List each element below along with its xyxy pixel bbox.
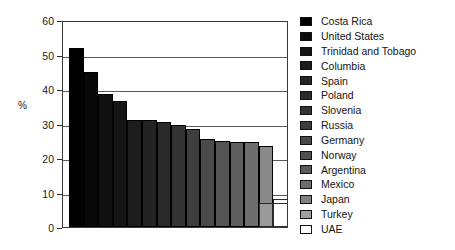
legend-item[interactable]: Spain [300,73,452,88]
legend-swatch-icon [300,121,312,130]
legend-item[interactable]: Norway [300,148,452,163]
legend-item[interactable]: Columbia [300,59,452,74]
bar [171,125,186,227]
y-tick-label: 30 [26,120,54,131]
plot-area [62,21,288,228]
legend-item[interactable]: Costa Rica [300,14,452,29]
legend-label: Turkey [321,209,353,220]
legend-swatch-icon [300,180,312,189]
legend-label: Norway [321,150,357,161]
legend-label: Argentina [321,165,366,176]
bar [142,120,157,227]
bars-group [63,22,287,227]
y-axis-tick-labels: 0102030405060 [26,0,54,250]
legend-swatch-icon [300,76,312,85]
bar-chart-figure: % 0102030405060 Costa RicaUnited StatesT… [0,0,455,250]
bar [259,203,274,227]
bar [84,72,99,227]
bar [98,94,113,227]
bar [186,129,201,227]
bar [244,142,259,227]
legend-item[interactable]: Japan [300,192,452,207]
legend-swatch-icon [300,151,312,160]
legend-label: Mexico [321,179,354,190]
legend-label: Spain [321,76,348,87]
legend-item[interactable]: Mexico [300,177,452,192]
bar [69,48,84,227]
bar [273,203,288,227]
bar [113,101,128,227]
bar [127,120,142,227]
legend-item[interactable]: United States [300,29,452,44]
legend-item[interactable]: Trinidad and Tobago [300,44,452,59]
y-tick-label: 20 [26,154,54,165]
legend-item[interactable]: Germany [300,133,452,148]
legend-label: Slovenia [321,105,361,116]
legend-swatch-icon [300,61,312,70]
bar [200,139,215,227]
legend-swatch-icon [300,210,312,219]
legend-swatch-icon [300,195,312,204]
legend-item[interactable]: Poland [300,88,452,103]
legend-item[interactable]: Argentina [300,162,452,177]
legend-swatch-icon [300,17,312,26]
legend-label: Poland [321,90,354,101]
chart-legend: Costa RicaUnited StatesTrinidad and Toba… [300,14,452,237]
legend-label: Columbia [321,61,365,72]
legend-swatch-icon [300,136,312,145]
legend-label: Trinidad and Tobago [321,46,416,57]
legend-label: Costa Rica [321,16,372,27]
y-tick-label: 40 [26,85,54,96]
legend-item[interactable]: Slovenia [300,103,452,118]
legend-swatch-icon [300,32,312,41]
legend-label: Japan [321,194,350,205]
legend-item[interactable]: Russia [300,118,452,133]
legend-label: United States [321,31,384,42]
y-tick-mark [57,228,62,229]
bar [230,142,245,227]
y-tick-label: 50 [26,51,54,62]
legend-label: Germany [321,135,364,146]
legend-swatch-icon [300,91,312,100]
bar [157,122,172,227]
legend-swatch-icon [300,225,312,234]
legend-label: Russia [321,120,353,131]
bar [215,141,230,227]
y-tick-label: 60 [26,16,54,27]
legend-item[interactable]: UAE [300,222,452,237]
legend-swatch-icon [300,106,312,115]
legend-swatch-icon [300,47,312,56]
y-tick-label: 10 [26,189,54,200]
legend-item[interactable]: Turkey [300,207,452,222]
legend-label: UAE [321,224,343,235]
legend-swatch-icon [300,165,312,174]
y-tick-label: 0 [26,223,54,234]
